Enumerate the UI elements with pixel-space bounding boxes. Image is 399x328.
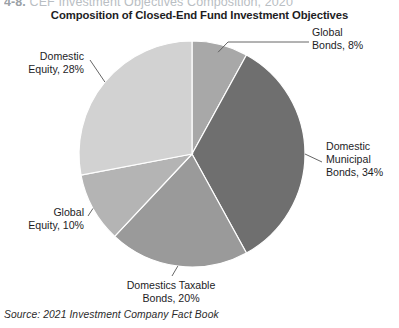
pie-slice-domestics-taxable-bonds bbox=[115, 154, 247, 267]
pie-slice-global-equity bbox=[81, 154, 192, 236]
pie-label-domestic-municipal-bonds: Domestic Municipal Bonds, 34% bbox=[326, 140, 399, 180]
source-note: Source: 2021 Investment Company Fact Boo… bbox=[4, 309, 219, 320]
leader-line-domestic-equity bbox=[90, 60, 105, 82]
pie-leader-line-group bbox=[88, 42, 322, 276]
figure-number: 4-8. bbox=[4, 0, 26, 9]
pie-slice-domestic-municipal-bonds bbox=[192, 55, 305, 253]
leader-line-domestics-taxable-bonds bbox=[172, 266, 178, 276]
chart-title: Composition of Closed-End Fund Investmen… bbox=[0, 9, 399, 21]
pie-slice-domestic-equity bbox=[79, 41, 192, 175]
pie-label-global-equity: Global Equity, 10% bbox=[2, 206, 84, 232]
leader-line-domestic-municipal-bonds bbox=[305, 154, 322, 162]
pie-slice-group bbox=[79, 41, 305, 267]
figure-page: 4-8. CEF Investment Objectives Compositi… bbox=[0, 0, 399, 328]
pie-label-domestic-equity: Domestic Equity, 28% bbox=[2, 50, 84, 76]
figure-header-text: CEF Investment Objectives Composition, 2… bbox=[30, 0, 293, 9]
leader-line-global-bonds bbox=[218, 42, 309, 52]
leader-line-global-equity bbox=[88, 208, 93, 216]
pie-label-domestics-taxable-bonds: Domestics Taxable Bonds, 20% bbox=[103, 279, 239, 305]
pie-label-global-bonds: Global Bonds, 8% bbox=[312, 26, 398, 52]
pie-slice-global-bonds bbox=[192, 41, 246, 154]
figure-running-header: 4-8. CEF Investment Objectives Compositi… bbox=[4, 0, 324, 9]
